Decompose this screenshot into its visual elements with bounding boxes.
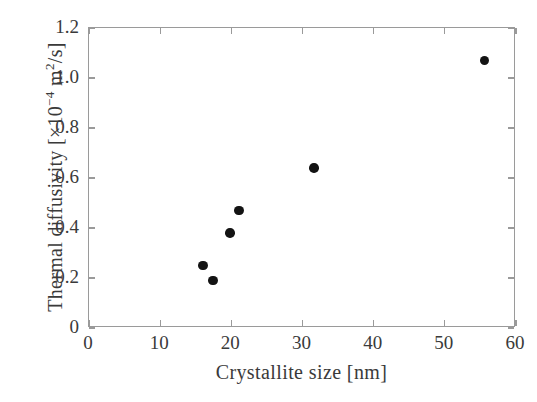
x-axis-title: Crystallite size [nm] bbox=[88, 361, 515, 384]
y-tick-label-0.2: 0.2 bbox=[0, 266, 79, 288]
y-axis-title-exponent: −4 bbox=[42, 91, 57, 106]
x-tick-label-50: 50 bbox=[414, 331, 474, 355]
scatter-chart-figure: Thermal diffusivity [×10−4 m2/s] 0102030… bbox=[0, 0, 537, 402]
data-point bbox=[234, 206, 244, 216]
x-tick-label-40: 40 bbox=[343, 331, 403, 355]
data-point bbox=[198, 261, 208, 271]
data-points-layer bbox=[89, 28, 514, 326]
y-axis-title-tail: /s] bbox=[44, 42, 66, 63]
y-tick-0 bbox=[89, 327, 95, 328]
y-tick-right-0 bbox=[508, 327, 514, 328]
data-point bbox=[225, 228, 235, 238]
y-tick-label-1.0: 1.0 bbox=[0, 66, 79, 88]
x-tick-top-60 bbox=[515, 28, 516, 34]
x-tick-60 bbox=[515, 320, 516, 326]
data-point bbox=[480, 56, 490, 66]
y-tick-label-0.8: 0.8 bbox=[0, 116, 79, 138]
y-tick-label-0.6: 0.6 bbox=[0, 166, 79, 188]
plot-area bbox=[88, 27, 515, 327]
data-point bbox=[208, 276, 218, 286]
y-tick-label-0.4: 0.4 bbox=[0, 216, 79, 238]
x-tick-label-20: 20 bbox=[200, 331, 260, 355]
y-tick-label-0: 0 bbox=[0, 316, 79, 338]
y-tick-label-1.2: 1.2 bbox=[0, 16, 79, 38]
x-tick-label-30: 30 bbox=[272, 331, 332, 355]
data-point bbox=[309, 163, 319, 173]
x-tick-label-60: 60 bbox=[485, 331, 537, 355]
x-tick-label-10: 10 bbox=[129, 331, 189, 355]
